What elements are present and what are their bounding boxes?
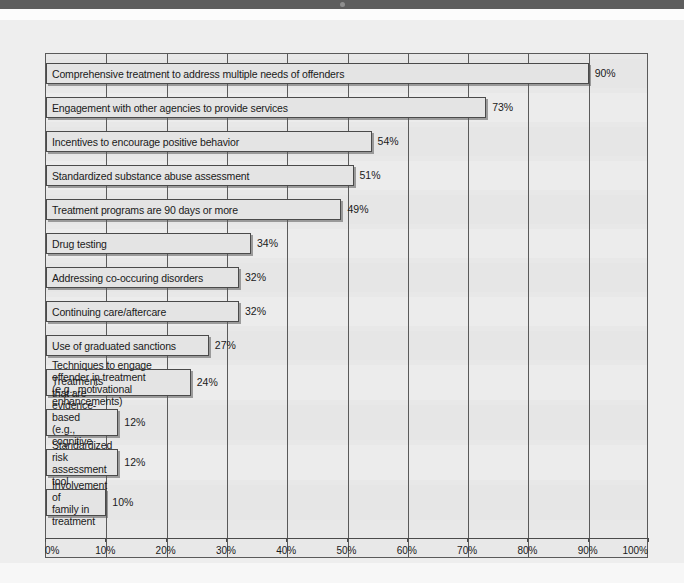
bar-value-label: 10%	[112, 496, 133, 508]
row-band	[46, 485, 647, 520]
axis-tick-mark	[45, 538, 46, 542]
bar: Treatment programs are 90 days or more	[46, 199, 341, 220]
bar-label: Involvement of family in treatment	[47, 479, 107, 527]
axis-tick-mark	[467, 538, 468, 542]
gridline	[408, 54, 409, 557]
axis-tick-label: 40%	[276, 545, 296, 556]
plot-area: Comprehensive treatment to address multi…	[45, 53, 648, 558]
bar-value-label: 12%	[124, 416, 145, 428]
bar-value-label: 32%	[245, 271, 266, 283]
bar-label: Comprehensive treatment to address multi…	[47, 68, 344, 80]
bar: Continuing care/aftercare	[46, 301, 239, 322]
figure-bottom-margin	[0, 563, 684, 583]
axis-tick-label: 0%	[45, 545, 59, 556]
bar: Standardized risk assessment tool	[46, 449, 118, 476]
axis-tick-mark	[588, 538, 589, 542]
bar: Treatments that are evidence-based (e.g.…	[46, 409, 118, 436]
bar: Involvement of family in treatment	[46, 489, 106, 516]
bar-value-label: 24%	[197, 376, 218, 388]
axis-tick-label: 20%	[156, 545, 176, 556]
bar-value-label: 34%	[257, 237, 278, 249]
top-decorative-band	[0, 0, 684, 9]
axis-tick-label: 10%	[95, 545, 115, 556]
axis-tick-mark	[105, 538, 106, 542]
bar-value-label: 49%	[347, 203, 368, 215]
bar-value-label: 90%	[595, 67, 616, 79]
chart-page: Comprehensive treatment to address multi…	[0, 0, 684, 583]
axis-tick-label: 70%	[457, 545, 477, 556]
axis-tick-mark	[286, 538, 287, 542]
bar-label: Use of graduated sanctions	[47, 340, 176, 352]
gridline	[589, 54, 590, 557]
bar-label: Addressing co-occuring disorders	[47, 272, 203, 284]
axis-tick-label: 50%	[336, 545, 356, 556]
axis-tick-mark	[347, 538, 348, 542]
bar: Incentives to encourage positive behavio…	[46, 131, 372, 152]
bar: Standardized substance abuse assessment	[46, 165, 354, 186]
gridline	[468, 54, 469, 557]
bar-label: Standardized substance abuse assessment	[47, 170, 249, 182]
bar-label: Treatment programs are 90 days or more	[47, 204, 238, 216]
bar-value-label: 12%	[124, 456, 145, 468]
axis-tick-mark	[166, 538, 167, 542]
band-dot-icon	[340, 2, 345, 7]
axis-tick-label: 30%	[216, 545, 236, 556]
gridline	[287, 54, 288, 557]
axis-tick-label: 80%	[517, 545, 537, 556]
bar: Addressing co-occuring disorders	[46, 267, 239, 288]
bar-label: Incentives to encourage positive behavio…	[47, 136, 239, 148]
bar: Drug testing	[46, 233, 251, 254]
bar-label: Continuing care/aftercare	[47, 306, 166, 318]
bar-value-label: 73%	[492, 101, 513, 113]
axis-tick-mark	[527, 538, 528, 542]
bar-value-label: 27%	[215, 339, 236, 351]
bar: Comprehensive treatment to address multi…	[46, 63, 589, 84]
figure-panel: Comprehensive treatment to address multi…	[0, 20, 684, 563]
gridline	[528, 54, 529, 557]
band-gap	[0, 9, 684, 20]
axis-tick-mark	[648, 538, 649, 542]
gridline	[348, 54, 349, 557]
bar: Engagement with other agencies to provid…	[46, 97, 486, 118]
bar-label: Drug testing	[47, 238, 107, 250]
axis-tick-mark	[226, 538, 227, 542]
bar-label: Engagement with other agencies to provid…	[47, 102, 288, 114]
bar-value-label: 51%	[360, 169, 381, 181]
axis-tick-label: 60%	[397, 545, 417, 556]
axis-tick-mark	[407, 538, 408, 542]
axis-tick-label: 90%	[578, 545, 598, 556]
bar-value-label: 32%	[245, 305, 266, 317]
bar: Use of graduated sanctions	[46, 335, 209, 356]
bar-value-label: 54%	[378, 135, 399, 147]
axis-tick-label: 100%	[622, 545, 648, 556]
